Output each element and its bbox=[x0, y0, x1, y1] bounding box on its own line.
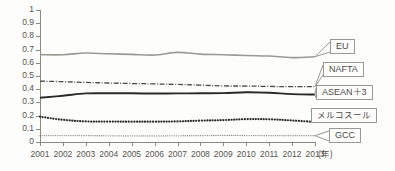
legend-leader-gcc bbox=[315, 131, 329, 141]
series-line-nafta bbox=[40, 81, 315, 87]
series-line-eu bbox=[40, 52, 315, 57]
series-line-asean-3 bbox=[40, 92, 315, 98]
legend-callout-asean3[interactable]: ASEAN＋3 bbox=[316, 85, 373, 100]
legend-callout-mercosur[interactable]: メルコスール bbox=[311, 108, 377, 123]
legend-leader-nafta bbox=[315, 65, 323, 87]
legend-callout-gcc[interactable]: GCC bbox=[329, 128, 361, 143]
legend-callout-eu[interactable]: EU bbox=[330, 39, 355, 54]
line-chart: 10.90.80.70.60.50.40.30.20.10 2001200220… bbox=[0, 0, 395, 171]
legend-callout-nafta[interactable]: NAFTA bbox=[323, 62, 364, 77]
series-line-gcc bbox=[40, 135, 315, 136]
series-line-mercosur bbox=[40, 117, 315, 122]
legend-leader-eu bbox=[315, 42, 330, 57]
